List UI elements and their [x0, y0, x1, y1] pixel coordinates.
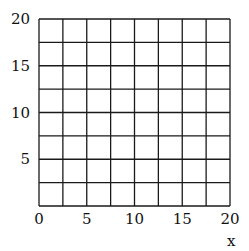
x-axis-label: x	[227, 232, 236, 250]
x-tick-label: 0	[34, 210, 44, 228]
y-tick-label: 5	[20, 150, 30, 168]
y-tick-label: 15	[11, 57, 30, 75]
x-tick-label: 20	[220, 210, 239, 228]
coordinate-grid-chart: 05101520 5101520 x	[0, 0, 249, 251]
y-tick-label: 10	[11, 104, 30, 122]
x-tick-label: 10	[125, 210, 144, 228]
x-tick-label: 5	[82, 210, 92, 228]
x-tick-label: 15	[173, 210, 192, 228]
x-axis-tick-labels: 05101520	[34, 210, 239, 228]
y-axis-tick-labels: 5101520	[11, 10, 30, 168]
y-tick-label: 20	[11, 10, 30, 28]
grid-lines	[39, 19, 230, 206]
